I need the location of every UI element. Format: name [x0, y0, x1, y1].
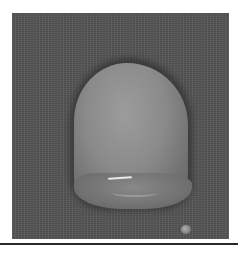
small-droplet [181, 225, 191, 234]
photo [12, 13, 229, 239]
droplet-rim [112, 189, 158, 197]
horizontal-rule [0, 243, 238, 245]
